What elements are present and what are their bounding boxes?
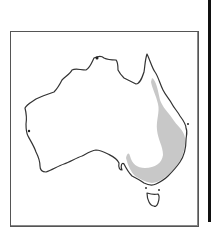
island-speck <box>158 189 160 191</box>
tasmania-coastline <box>147 193 159 206</box>
island-speck <box>28 130 30 132</box>
australia-map <box>0 0 212 243</box>
island-speck <box>187 123 189 125</box>
island-speck <box>96 57 99 60</box>
island-speck <box>145 187 147 189</box>
